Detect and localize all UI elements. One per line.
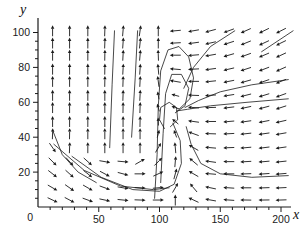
field-arrow-tail — [227, 54, 234, 56]
field-arrow-head — [205, 120, 208, 123]
field-arrow-head — [138, 102, 141, 106]
streamline — [262, 31, 294, 52]
direction-field-figure: 50100150200204060801000 y x — [0, 0, 305, 242]
field-arrow-tail — [227, 29, 234, 32]
field-arrow-tail — [192, 173, 199, 177]
field-arrow-head — [205, 132, 209, 135]
field-arrow-tail — [175, 133, 177, 137]
field-arrow-head — [205, 42, 209, 45]
axes — [33, 18, 291, 212]
field-arrow-head — [223, 132, 226, 135]
field-arrow-tail — [192, 147, 199, 151]
field-arrow-head — [157, 38, 160, 41]
field-arrow-tail — [208, 95, 216, 96]
field-arrow-head — [103, 25, 106, 28]
field-arrow-head — [51, 102, 54, 105]
field-arrow-tail — [48, 185, 55, 189]
field-arrow-head — [121, 76, 124, 79]
field-arrow-head — [139, 90, 142, 94]
field-arrow-tail — [173, 30, 181, 31]
field-arrow-tail — [123, 41, 124, 49]
field-arrow-head — [188, 94, 192, 97]
field-arrow-tail — [135, 161, 142, 165]
field-arrow-tail — [244, 147, 252, 148]
field-arrow-head — [259, 106, 263, 109]
field-arrow-head — [86, 50, 89, 53]
field-arrow-tail — [48, 198, 55, 201]
field-arrow-tail — [175, 160, 176, 168]
field-arrow-head — [122, 64, 125, 67]
field-arrow-head — [205, 54, 209, 57]
field-arrow-tail — [48, 170, 54, 175]
field-arrow-head — [223, 94, 227, 97]
field-arrow-tail — [227, 94, 235, 95]
field-arrow-tail — [83, 198, 90, 201]
field-arrow-tail — [140, 67, 141, 75]
field-arrow-tail — [244, 94, 251, 96]
field-arrow-tail — [244, 29, 251, 32]
field-arrow-tail — [191, 55, 199, 56]
field-arrow-head — [223, 106, 227, 109]
field-arrow-head — [121, 90, 124, 94]
field-arrow-head — [122, 38, 125, 42]
field-arrow-tail — [191, 121, 199, 122]
field-arrow-tail — [49, 143, 53, 149]
field-arrow-tail — [83, 185, 90, 189]
field-arrow-head — [51, 76, 54, 79]
field-arrow-head — [51, 25, 54, 28]
field-arrow-head — [205, 94, 209, 97]
field-arrow-head — [86, 116, 89, 119]
field-arrow-head — [205, 80, 209, 83]
field-arrow-head — [142, 198, 146, 201]
field-arrow-tail — [158, 79, 159, 87]
field-arrow-head — [86, 128, 89, 131]
field-arrow-tail — [262, 133, 270, 134]
field-arrow-tail — [175, 121, 179, 124]
field-arrow-head — [170, 41, 174, 44]
field-arrow-head — [51, 50, 54, 53]
field-arrow-tail — [208, 161, 216, 162]
field-arrow-tail — [208, 200, 215, 201]
x-tick-label: 150 — [211, 213, 229, 225]
field-arrow-head — [68, 25, 71, 28]
field-arrow-head — [51, 38, 54, 41]
field-arrow-head — [139, 38, 142, 42]
field-arrow-tail — [227, 68, 234, 70]
field-arrow-tail — [244, 133, 252, 134]
vector-field-plot: 50100150200204060801000 — [0, 0, 305, 242]
field-arrow-head — [240, 198, 243, 201]
streamline — [132, 31, 138, 137]
field-arrow-tail — [65, 185, 71, 189]
field-arrow-head — [240, 186, 243, 189]
field-arrow-head — [240, 106, 244, 109]
field-arrow-tail — [173, 69, 181, 70]
field-arrow-head — [188, 131, 192, 134]
field-arrow-head — [224, 54, 228, 57]
field-arrow-tail — [153, 173, 160, 176]
field-arrow-tail — [279, 28, 286, 31]
field-arrow-head — [188, 120, 192, 123]
field-arrow-head — [276, 160, 280, 163]
field-arrow-tail — [118, 172, 125, 174]
field-arrow-head — [223, 172, 226, 175]
field-arrow-head — [223, 68, 227, 71]
field-arrow-tail — [191, 42, 199, 43]
field-arrow-head — [86, 90, 89, 93]
field-arrow-head — [205, 172, 209, 175]
field-arrow-head — [223, 120, 227, 123]
tick-labels: 50100150200204060801000 — [12, 26, 289, 225]
field-arrow-head — [125, 173, 129, 176]
field-arrow-head — [276, 198, 280, 201]
field-arrow-head — [174, 156, 177, 160]
field-arrow-tail — [262, 106, 269, 108]
field-arrow-head — [259, 120, 263, 123]
field-arrow-tail — [118, 187, 125, 188]
field-arrow-head — [68, 38, 71, 41]
field-arrow-head — [68, 50, 71, 53]
field-arrow-tail — [244, 121, 252, 122]
field-arrow-tail — [262, 94, 269, 96]
field-arrow-head — [51, 116, 54, 119]
field-arrow-tail — [262, 80, 269, 82]
field-arrow-tail — [175, 146, 176, 154]
streamline — [110, 31, 115, 148]
